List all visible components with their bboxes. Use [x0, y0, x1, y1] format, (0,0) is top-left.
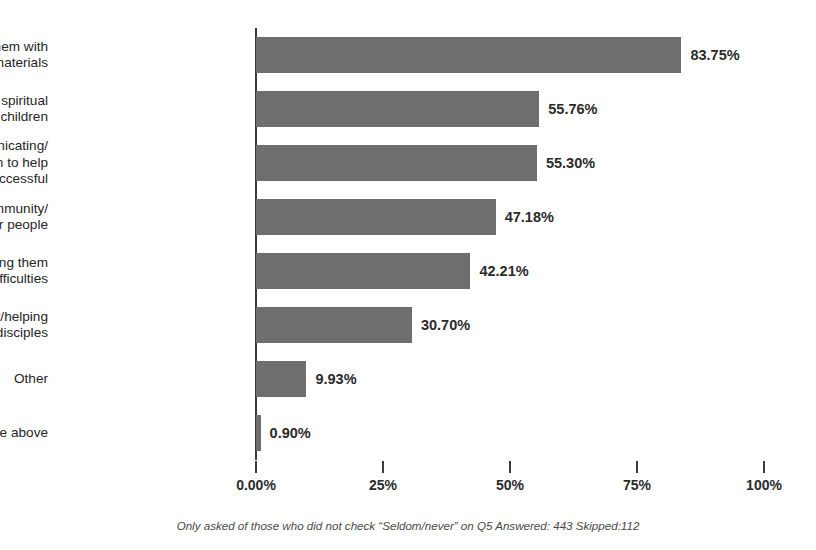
bar [256, 145, 537, 181]
category-label: Other [0, 371, 48, 388]
bar-value-label: 42.21% [479, 253, 528, 289]
chart-row: 42.21% [256, 244, 764, 298]
bar [256, 37, 681, 73]
bar-chart: 83.75%55.76%55.30%47.18%42.21%30.70%9.93… [0, 0, 816, 550]
category-label: Training them spiritually/helping them d… [0, 309, 48, 342]
bar-value-label: 55.30% [546, 145, 595, 181]
bar-value-label: 47.18% [505, 199, 554, 235]
bar-value-label: 55.76% [548, 91, 597, 127]
bar-value-label: 9.93% [315, 361, 356, 397]
bar [256, 253, 470, 289]
x-axis-tick-label: 25% [369, 477, 397, 493]
bar [256, 415, 261, 451]
bar [256, 361, 306, 397]
plot-area: 83.75%55.76%55.30%47.18%42.21%30.70%9.93… [256, 28, 764, 460]
x-axis-tick [763, 461, 765, 473]
bar [256, 307, 412, 343]
bar-value-label: 83.75% [690, 37, 739, 73]
chart-row: 55.76% [256, 82, 764, 136]
bar [256, 91, 539, 127]
x-axis-tick-label: 100% [746, 477, 782, 493]
x-axis-tick-label: 0.00% [236, 477, 276, 493]
category-label: Involving them in community/ connection … [0, 201, 48, 234]
category-label: Spending time communicating/ collaborati… [0, 138, 48, 188]
bar-value-label: 30.70% [421, 307, 470, 343]
x-axis-tick-label: 50% [496, 477, 524, 493]
x-axis-tick-label: 75% [623, 477, 651, 493]
x-axis-tick [509, 461, 511, 473]
chart-row: 30.70% [256, 298, 764, 352]
category-label: Teaching them to have spiritual conversa… [0, 93, 48, 126]
category-label: None of the above [0, 425, 48, 442]
x-axis-tick [255, 461, 257, 473]
chart-row: 47.18% [256, 190, 764, 244]
chart-row: 83.75% [256, 28, 764, 82]
category-label: Counseling/coaching them through difficu… [0, 255, 48, 288]
x-axis-tick [382, 461, 384, 473]
category-label: Providing them with resources/materials [0, 39, 48, 72]
x-axis-tick [636, 461, 638, 473]
chart-row: 0.90% [256, 406, 764, 460]
bar-value-label: 0.90% [270, 415, 311, 451]
chart-row: 9.93% [256, 352, 764, 406]
bar [256, 199, 496, 235]
chart-footnote: Only asked of those who did not check “S… [0, 519, 816, 532]
chart-row: 55.30% [256, 136, 764, 190]
